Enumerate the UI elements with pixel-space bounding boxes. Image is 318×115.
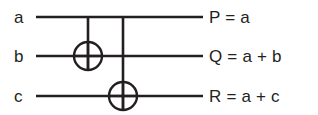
input-label-c: c [14,88,23,105]
logic-circuit-diagram: a b c P = a Q = a + b R = a + c [0,0,318,115]
input-label-b: b [14,48,24,65]
output-label-p: P = a [209,9,250,26]
output-label-q: Q = a + b [209,48,282,65]
output-label-r: R = a + c [209,88,280,105]
input-label-a: a [14,9,24,26]
